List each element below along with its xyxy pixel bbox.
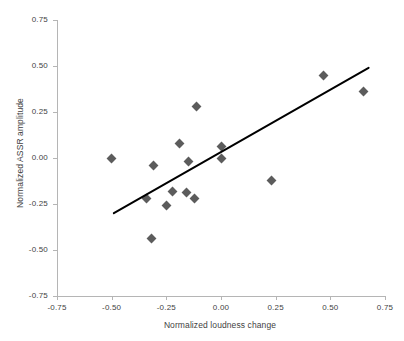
data-point-marker bbox=[146, 234, 156, 244]
y-tick-mark bbox=[53, 112, 57, 113]
x-tick-mark bbox=[330, 296, 331, 300]
x-tick-label: -0.75 bbox=[37, 303, 77, 312]
data-point-marker bbox=[190, 194, 200, 204]
data-point-marker bbox=[319, 70, 329, 80]
data-point-marker bbox=[161, 201, 171, 211]
x-tick-label: 0.00 bbox=[201, 303, 241, 312]
data-point-marker bbox=[107, 153, 117, 163]
y-tick-mark bbox=[53, 158, 57, 159]
data-point-marker bbox=[358, 87, 368, 97]
x-axis-label: Normalized loudness change bbox=[0, 320, 404, 330]
x-tick-mark bbox=[57, 296, 58, 300]
data-point-marker bbox=[183, 157, 193, 167]
data-point-marker bbox=[181, 188, 191, 198]
trendline bbox=[0, 0, 404, 341]
x-tick-mark bbox=[221, 296, 222, 300]
y-tick-mark bbox=[53, 204, 57, 205]
y-tick-mark bbox=[53, 66, 57, 67]
y-tick-label: 0.75 bbox=[8, 15, 48, 24]
y-tick-label: -0.25 bbox=[8, 199, 48, 208]
x-tick-mark bbox=[112, 296, 113, 300]
x-tick-mark bbox=[166, 296, 167, 300]
y-tick-label: 0.50 bbox=[8, 61, 48, 70]
y-tick-label: 0.00 bbox=[8, 153, 48, 162]
y-axis-label: Normalized ASSR amplitude bbox=[15, 63, 25, 243]
data-point-marker bbox=[216, 142, 226, 152]
scatter-chart: 0.750.500.250.00-0.25-0.50-0.75 -0.75-0.… bbox=[0, 0, 404, 341]
x-tick-label: -0.25 bbox=[146, 303, 186, 312]
data-point-marker bbox=[142, 194, 152, 204]
data-point-marker bbox=[216, 153, 226, 163]
x-tick-label: 0.75 bbox=[365, 303, 404, 312]
x-tick-mark bbox=[276, 296, 277, 300]
y-axis-line bbox=[57, 20, 58, 297]
x-tick-label: 0.25 bbox=[256, 303, 296, 312]
data-point-marker bbox=[148, 160, 158, 170]
y-tick-mark bbox=[53, 250, 57, 251]
y-tick-label: -0.75 bbox=[8, 291, 48, 300]
x-tick-label: -0.50 bbox=[92, 303, 132, 312]
data-point-marker bbox=[192, 102, 202, 112]
x-tick-label: 0.50 bbox=[310, 303, 350, 312]
data-point-marker bbox=[266, 175, 276, 185]
x-tick-mark bbox=[385, 296, 386, 300]
y-tick-label: 0.25 bbox=[8, 107, 48, 116]
data-point-marker bbox=[168, 186, 178, 196]
y-tick-label: -0.50 bbox=[8, 245, 48, 254]
y-tick-mark bbox=[53, 20, 57, 21]
data-point-marker bbox=[175, 138, 185, 148]
